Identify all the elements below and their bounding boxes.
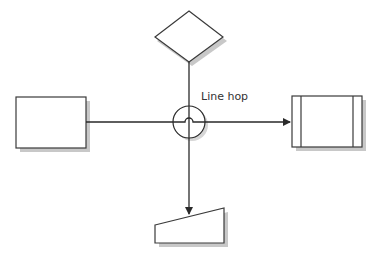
- predefined-process-shape[interactable]: [292, 96, 366, 151]
- manual-input-shape[interactable]: [155, 208, 228, 247]
- flowchart-canvas: Line hop: [0, 0, 377, 256]
- decision-diamond[interactable]: [155, 11, 227, 66]
- process-rectangle[interactable]: [16, 97, 90, 152]
- line-hop-label: Line hop: [201, 90, 248, 103]
